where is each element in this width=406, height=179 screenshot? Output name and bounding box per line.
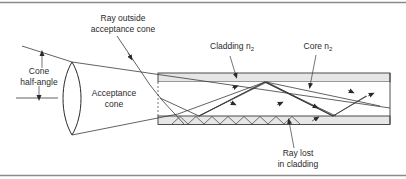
fiber-diagram	[0, 0, 406, 179]
core-label-text: Core n	[304, 41, 330, 51]
core-label-subscript: 2	[329, 46, 332, 52]
ray-lost-label: Ray lost in cladding	[270, 148, 326, 169]
acceptance-cone-label-line1: Acceptance	[86, 88, 142, 99]
core-label: Core n2	[296, 41, 340, 55]
core	[158, 82, 390, 116]
acceptance-cone-label: Acceptance cone	[86, 88, 142, 109]
ray-outside-label-line2: acceptance cone	[78, 24, 168, 35]
lens	[63, 62, 81, 135]
cone-half-angle-label-line1: Cone	[18, 66, 60, 77]
acceptance-cone-label-line2: cone	[86, 99, 142, 110]
ray-outside-label-line1: Ray outside	[78, 13, 168, 24]
cone-half-angle-label-line2: half-angle	[18, 77, 60, 88]
fiber	[158, 73, 390, 125]
top-cladding	[158, 73, 390, 82]
cladding-label: Cladding n2	[202, 41, 262, 55]
ray-lost-label-line1: Ray lost	[270, 148, 326, 159]
ray-lost-label-line2: in cladding	[270, 159, 326, 170]
cone-upper-incoming-line	[22, 46, 72, 62]
cone-half-angle-label: Cone half-angle	[18, 66, 60, 87]
ray-outside-label: Ray outside acceptance cone	[78, 13, 168, 34]
cladding-label-text: Cladding n	[210, 41, 251, 51]
cladding-label-subscript: 2	[251, 46, 254, 52]
bottom-cladding	[158, 116, 390, 125]
ray-lost-leader	[289, 121, 294, 148]
